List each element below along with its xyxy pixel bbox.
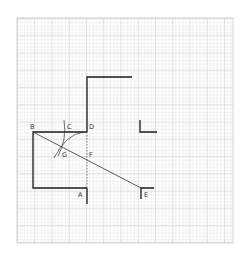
label-d: D [89,123,94,131]
geometry-diagram: B C D F G A E [0,0,244,260]
label-b: B [30,123,34,131]
label-e: E [144,191,148,199]
graph-paper-grid [17,18,233,243]
label-f: F [89,151,93,159]
label-g: G [62,151,67,159]
label-a: A [78,191,83,199]
label-c: C [67,123,72,131]
